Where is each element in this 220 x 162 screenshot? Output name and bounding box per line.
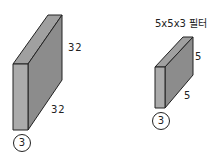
- filter-title: 5x5x3 필터: [155, 19, 207, 29]
- input-volume-front-face: [13, 64, 28, 130]
- filter-depth-circle: 3: [152, 112, 170, 130]
- input-width-label: 32: [51, 105, 66, 115]
- filter-front-face: [155, 67, 165, 108]
- filter-width-label: 5: [184, 91, 191, 101]
- input-height-label: 32: [68, 43, 83, 53]
- input-depth-circle: 3: [13, 134, 31, 152]
- filter-height-label: 5: [195, 52, 202, 62]
